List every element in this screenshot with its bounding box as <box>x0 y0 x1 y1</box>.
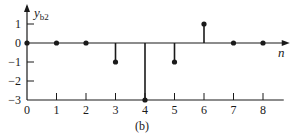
stem-marker <box>24 40 29 45</box>
x-tick-label: 0 <box>24 103 30 117</box>
x-tick-label: 8 <box>260 103 266 117</box>
figure-caption: (b) <box>135 119 149 133</box>
y-axis-label: yb2 <box>32 5 49 22</box>
x-tick-label: 5 <box>172 103 178 117</box>
stem-marker <box>54 40 59 45</box>
axes: 10−1−2−3012345678 <box>8 4 290 117</box>
labels: yb2 n (b) <box>32 5 285 133</box>
y-tick-label: 1 <box>15 17 21 31</box>
x-axis-label: n <box>278 45 285 60</box>
x-tick-label: 7 <box>231 103 237 117</box>
stem-marker <box>142 97 147 102</box>
stem-marker <box>201 21 206 26</box>
y-tick-label: −1 <box>8 55 21 69</box>
y-tick-label: −3 <box>8 93 21 107</box>
stem-marker <box>231 40 236 45</box>
stem-marker <box>172 59 177 64</box>
stems <box>24 21 265 102</box>
x-tick-label: 4 <box>142 103 148 117</box>
y-axis-label-subscript: b2 <box>40 12 49 22</box>
x-tick-label: 3 <box>113 103 119 117</box>
y-tick-label: 0 <box>15 36 21 50</box>
stem-marker <box>113 59 118 64</box>
stem-plot: 10−1−2−3012345678 yb2 n (b) <box>0 0 297 135</box>
stem-plot-canvas: 10−1−2−3012345678 yb2 n (b) <box>0 0 297 135</box>
y-axis-arrow-icon <box>24 4 30 12</box>
x-tick-label: 2 <box>83 103 89 117</box>
x-tick-label: 1 <box>54 103 60 117</box>
stem-marker <box>83 40 88 45</box>
x-tick-label: 6 <box>201 103 207 117</box>
stem-marker <box>260 40 265 45</box>
y-tick-label: −2 <box>8 74 21 88</box>
